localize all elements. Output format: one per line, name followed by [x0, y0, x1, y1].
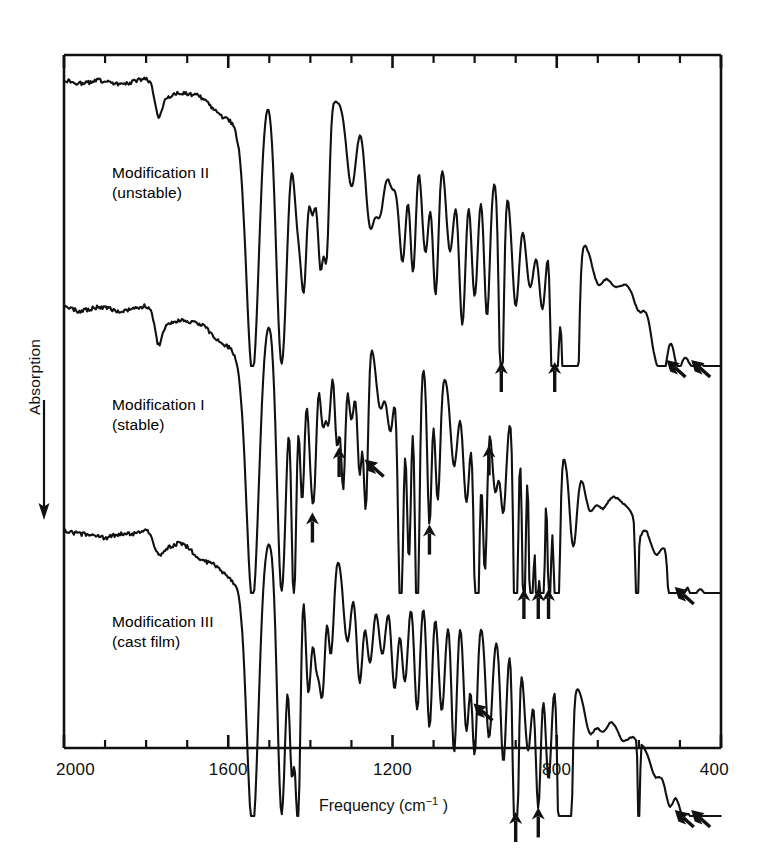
y-axis-label: Absorption: [26, 272, 44, 482]
y-axis-label-group: Absorption: [14, 250, 54, 540]
x-tick-label-800: 800: [531, 760, 583, 780]
x-tick-label-2000: 2000: [56, 760, 108, 780]
spectrum-trace-1: [64, 78, 721, 366]
panel-label-modification-iii: Modification III (cast film): [112, 612, 214, 653]
ir-spectra-figure: Absorption Modification II (unstable) Mo…: [0, 0, 767, 850]
panel-label-modification-i: Modification I (stable): [112, 395, 205, 436]
x-tick-label-1200: 1200: [367, 760, 419, 780]
x-axis-title-main: Frequency (cm: [319, 797, 426, 814]
x-tick-label-400: 400: [677, 760, 729, 780]
x-axis-title: Frequency (cm−1 ): [0, 795, 767, 815]
annotation-arrows-panel-3: [474, 703, 711, 842]
spectrum-trace-2: [64, 304, 721, 593]
x-axis-title-superscript: −1: [426, 795, 439, 807]
x-axis-title-close: ): [438, 797, 448, 814]
panel-label-modification-ii: Modification II (unstable): [112, 163, 209, 204]
x-tick-label-1600: 1600: [202, 760, 254, 780]
